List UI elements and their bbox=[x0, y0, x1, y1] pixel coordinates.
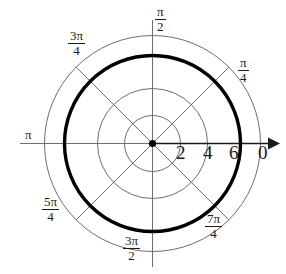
fraction-denominator: 2 bbox=[155, 20, 166, 35]
fraction-7pi-over-4: 7π 4 bbox=[205, 212, 222, 242]
angle-label-pi-over-4: π 4 bbox=[238, 56, 249, 86]
fraction-numerator: π bbox=[155, 5, 166, 20]
fraction-3pi-over-4: 3π 4 bbox=[68, 29, 85, 59]
fraction-denominator: 4 bbox=[238, 71, 249, 86]
angle-label-3pi-over-4: 3π 4 bbox=[68, 29, 85, 59]
fraction-5pi-over-4: 5π 4 bbox=[42, 195, 59, 225]
angle-label-theta-0: 0 bbox=[258, 143, 268, 162]
fraction-numerator: 3π bbox=[68, 29, 85, 44]
fraction-3pi-over-2: 3π 2 bbox=[123, 234, 140, 264]
fraction-numerator: 7π bbox=[205, 212, 222, 227]
polar-grid-svg bbox=[0, 0, 286, 274]
fraction-denominator: 2 bbox=[123, 249, 140, 264]
fraction-denominator: 4 bbox=[42, 210, 59, 225]
origin-dot bbox=[149, 140, 156, 147]
radial-tick-label-2: 2 bbox=[176, 143, 186, 162]
polar-axis-arrowhead bbox=[268, 138, 280, 150]
radial-tick-label-6: 6 bbox=[229, 143, 239, 162]
fraction-denominator: 4 bbox=[205, 227, 222, 242]
radial-tick-label-4: 4 bbox=[203, 143, 213, 162]
fraction-pi-over-2: π 2 bbox=[155, 5, 166, 35]
angle-label-7pi-over-4: 7π 4 bbox=[205, 212, 222, 242]
fraction-numerator: 5π bbox=[42, 195, 59, 210]
polar-chart: 2 4 6 0 π 4 π 2 3π 4 π 5π 4 3π 2 bbox=[0, 0, 286, 274]
angle-label-5pi-over-4: 5π 4 bbox=[42, 195, 59, 225]
fraction-denominator: 4 bbox=[68, 44, 85, 59]
angle-label-pi-over-2: π 2 bbox=[155, 5, 166, 35]
fraction-numerator: π bbox=[238, 56, 249, 71]
angle-label-pi: π bbox=[25, 128, 32, 141]
fraction-pi-over-4: π 4 bbox=[238, 56, 249, 86]
angle-label-3pi-over-2: 3π 2 bbox=[123, 234, 140, 264]
fraction-numerator: 3π bbox=[123, 234, 140, 249]
